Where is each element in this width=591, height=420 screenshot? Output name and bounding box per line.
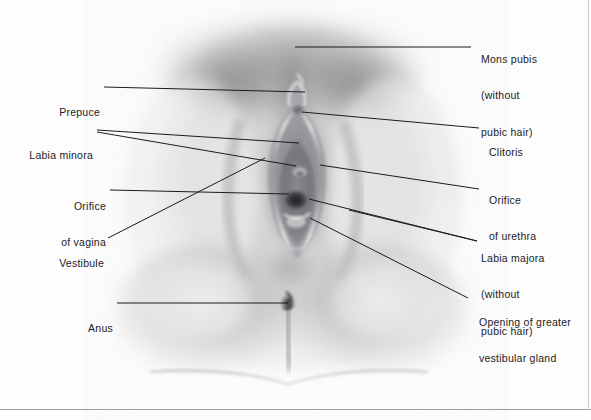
label-gvg-line2: vestibular gland [479,352,571,364]
label-prepuce-line1: Prepuce [0,106,100,118]
label-orifice-of-vagina-line1: Orifice [0,200,106,212]
label-anus-line1: Anus [0,322,113,334]
label-clitoris: Clitoris [489,121,523,170]
label-labia-minora: Labia minora [0,124,93,173]
label-prepuce: Prepuce [0,81,100,130]
illustration-body [114,8,472,412]
label-mons-pubis-line1: Mons pubis [481,53,537,65]
right-divider [588,0,589,410]
label-clitoris-line1: Clitoris [489,146,523,158]
bottom-divider [0,409,591,410]
label-labia-majora-line1: Labia majora [481,252,545,264]
label-vestibule: Vestibule [0,232,104,281]
label-vestibule-line1: Vestibule [0,257,104,269]
label-labia-minora-line1: Labia minora [0,149,93,161]
label-mons-pubis-line2: (without [481,89,537,101]
label-orifice-of-urethra-line1: Orifice [489,194,536,206]
label-anus: Anus [0,297,113,346]
label-opening-of-greater-vestibular-gland: Opening of greater vestibular gland [479,291,571,377]
label-gvg-line1: Opening of greater [479,316,571,328]
